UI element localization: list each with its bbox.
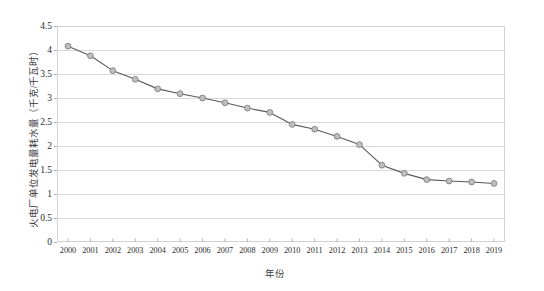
x-axis-tick-label: 2002 — [105, 246, 121, 255]
data-point-marker — [132, 76, 138, 82]
x-axis-tick-label: 2013 — [351, 246, 367, 255]
data-point-marker — [200, 95, 206, 101]
y-axis-tick-label: 1 — [6, 189, 52, 199]
data-point-marker — [401, 170, 407, 176]
y-axis-tick-mark — [54, 194, 57, 195]
x-axis-tick-label: 2008 — [239, 246, 255, 255]
x-tick-marks-group — [68, 239, 494, 243]
y-axis-tick-label: 4.5 — [6, 21, 52, 31]
x-axis-tick-label: 2001 — [82, 246, 98, 255]
data-point-marker — [446, 178, 452, 184]
data-point-marker — [334, 134, 340, 140]
y-axis-tick-label: 2 — [6, 141, 52, 151]
x-axis-tick-label: 2000 — [60, 246, 76, 255]
y-axis-tick-label: 1.5 — [6, 165, 52, 175]
x-axis-tick-label: 2017 — [441, 246, 457, 255]
y-axis-tick-mark — [54, 218, 57, 219]
data-point-marker — [177, 91, 183, 97]
y-axis-tick-mark — [54, 50, 57, 51]
line-chart-plot — [57, 26, 505, 242]
y-axis-tick-label: 3 — [6, 93, 52, 103]
x-axis-tick-label: 2011 — [307, 246, 323, 255]
x-axis-tick-label: 2012 — [329, 246, 345, 255]
y-axis-tick-label: 4 — [6, 45, 52, 55]
data-point-marker — [222, 100, 228, 106]
y-axis-tick-mark — [54, 242, 57, 243]
data-point-marker — [155, 86, 161, 92]
x-axis-tick-label: 2009 — [262, 246, 278, 255]
x-axis-tick-label: 2019 — [486, 246, 502, 255]
data-point-marker — [110, 68, 116, 74]
x-axis-tick-label: 2018 — [463, 246, 479, 255]
data-point-marker — [289, 122, 295, 128]
data-point-marker — [244, 105, 250, 111]
x-axis-tick-label: 2004 — [149, 246, 165, 255]
x-axis-tick-label: 2006 — [194, 246, 210, 255]
x-axis-title: 年份 — [45, 266, 505, 280]
data-point-marker — [312, 126, 318, 132]
y-axis-tick-mark — [54, 26, 57, 27]
data-point-marker — [424, 177, 430, 183]
y-axis-tick-label: 3.5 — [6, 69, 52, 79]
y-axis-tick-label: 2.5 — [6, 117, 52, 127]
y-axis-tick-label: 0 — [6, 237, 52, 247]
data-point-marker — [88, 53, 94, 59]
series-line-path — [68, 46, 494, 183]
x-axis-tick-label: 2016 — [419, 246, 435, 255]
x-axis-tick-label: 2007 — [217, 246, 233, 255]
data-point-marker — [491, 181, 497, 187]
y-axis-tick-mark — [54, 98, 57, 99]
y-axis-tick-label: 0.5 — [6, 213, 52, 223]
data-point-marker — [379, 162, 385, 168]
x-axis-tick-label: 2010 — [284, 246, 300, 255]
chart-figure: 火电厂单位发电量耗水量（千克/千瓦时） 00.511.522.533.544.5… — [0, 0, 544, 291]
data-point-marker — [469, 179, 475, 185]
data-point-marker — [267, 110, 273, 116]
x-axis-tick-label: 2015 — [396, 246, 412, 255]
series-markers-group — [65, 43, 497, 186]
y-axis-tick-mark — [54, 122, 57, 123]
data-point-marker — [357, 142, 363, 148]
x-axis-tick-label: 2003 — [127, 246, 143, 255]
y-axis-tick-mark — [54, 74, 57, 75]
x-axis-tick-label: 2014 — [374, 246, 390, 255]
data-point-marker — [65, 43, 71, 49]
y-axis-tick-mark — [54, 146, 57, 147]
x-axis-tick-label: 2005 — [172, 246, 188, 255]
y-axis-tick-mark — [54, 170, 57, 171]
